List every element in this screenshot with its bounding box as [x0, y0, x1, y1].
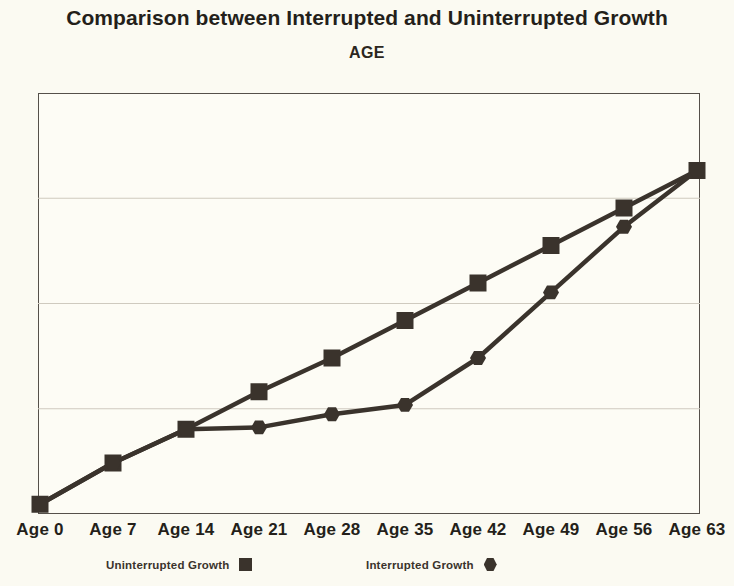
chart-legend: Uninterrupted Growth Interrupted Growth	[0, 558, 734, 582]
x-tick-label: Age 49	[523, 520, 580, 540]
data-point-interrupted	[251, 420, 267, 434]
chart-page: Comparison between Interrupted and Unint…	[0, 0, 734, 586]
x-tick-label: Age 0	[16, 520, 63, 540]
x-tick-label: Age 28	[304, 520, 361, 540]
x-tick-label: Age 7	[89, 520, 136, 540]
series-line-uninterrupted	[40, 171, 697, 505]
x-tick-label: Age 21	[231, 520, 288, 540]
data-point-uninterrupted	[397, 312, 414, 329]
data-point-interrupted	[324, 407, 340, 421]
square-marker-icon	[239, 558, 252, 571]
legend-label-uninterrupted: Uninterrupted Growth	[106, 559, 229, 571]
data-point-uninterrupted	[324, 350, 341, 367]
legend-item-uninterrupted-growth: Uninterrupted Growth	[106, 558, 252, 571]
data-point-uninterrupted	[251, 383, 268, 400]
chart-title: Comparison between Interrupted and Unint…	[0, 6, 734, 30]
x-tick-label: Age 56	[596, 520, 653, 540]
x-tick-label: Age 35	[377, 520, 434, 540]
data-point-uninterrupted	[470, 275, 487, 292]
chart-subtitle: AGE	[0, 44, 734, 62]
chart-canvas	[38, 93, 700, 514]
hexagon-marker-icon	[484, 558, 497, 571]
x-axis-tick-labels: Age 0Age 7Age 14Age 21Age 28Age 35Age 42…	[0, 520, 734, 548]
data-point-uninterrupted	[543, 237, 560, 254]
x-tick-label: Age 63	[669, 520, 726, 540]
x-tick-label: Age 14	[158, 520, 215, 540]
data-point-uninterrupted	[616, 200, 633, 217]
x-tick-label: Age 42	[450, 520, 507, 540]
plot-area	[38, 93, 700, 514]
legend-item-interrupted-growth: Interrupted Growth	[366, 558, 497, 571]
legend-label-interrupted: Interrupted Growth	[366, 559, 474, 571]
